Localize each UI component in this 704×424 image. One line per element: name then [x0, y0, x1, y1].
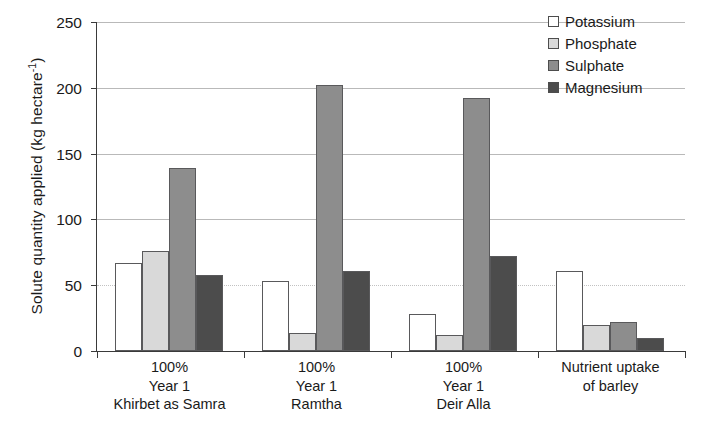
y-axis-title-close: ) — [28, 58, 45, 63]
legend-label: Phosphate — [565, 35, 637, 52]
x-axis-group-label: 100%Year 1Khirbet as Samra — [96, 358, 243, 414]
x-axis-group-label-line: 100% — [390, 358, 537, 377]
x-axis-tick — [97, 351, 98, 358]
chart-legend: PotassiumPhosphateSulphateMagnesium — [548, 10, 643, 98]
legend-swatch-potassium — [548, 16, 559, 27]
bar-sulphate — [463, 98, 490, 351]
y-axis-tick: 100 — [91, 219, 97, 220]
legend-label: Potassium — [565, 13, 635, 30]
x-axis-group-label-line: Year 1 — [390, 377, 537, 396]
y-axis-tick: 150 — [91, 154, 97, 155]
x-axis-tick — [538, 351, 539, 358]
bar-potassium — [115, 263, 142, 351]
bar-magnesium — [196, 275, 223, 351]
x-axis-group-label-line: Year 1 — [96, 377, 243, 396]
x-axis-tick — [685, 351, 686, 358]
gridline — [97, 154, 685, 155]
bar-sulphate — [610, 322, 637, 351]
x-axis-group-label-line: 100% — [96, 358, 243, 377]
bar-sulphate — [169, 168, 196, 351]
y-axis-title: Solute quantity applied (kg hectare-1) — [26, 6, 56, 366]
bar-magnesium — [490, 256, 517, 351]
legend-label: Magnesium — [565, 79, 643, 96]
bar-chart-figure: Solute quantity applied (kg hectare-1) 0… — [0, 0, 704, 424]
x-axis-group-label: 100%Year 1Ramtha — [243, 358, 390, 414]
y-axis-tick-label: 200 — [56, 80, 82, 98]
legend-swatch-phosphate — [548, 38, 559, 49]
x-axis-group-label: 100%Year 1Deir Alla — [390, 358, 537, 414]
legend-item-potassium[interactable]: Potassium — [548, 10, 643, 32]
y-axis-title-text: Solute quantity applied (kg hectare — [28, 72, 45, 314]
x-axis-group-label-line: of barley — [537, 377, 684, 396]
bar-phosphate — [142, 251, 169, 351]
y-axis-tick-label: 0 — [73, 343, 82, 361]
y-axis-tick: 200 — [91, 88, 97, 89]
bar-potassium — [262, 281, 289, 351]
x-axis-tick — [244, 351, 245, 358]
legend-swatch-sulphate — [548, 60, 559, 71]
y-axis-title-exponent: -1 — [26, 63, 38, 73]
x-axis-group-label: Nutrient uptakeof barley — [537, 358, 684, 395]
bar-sulphate — [316, 85, 343, 351]
legend-item-sulphate[interactable]: Sulphate — [548, 54, 643, 76]
y-axis-tick-label: 100 — [56, 211, 82, 229]
x-axis-group-label-line: Nutrient uptake — [537, 358, 684, 377]
y-axis-tick: 250 — [91, 22, 97, 23]
bar-phosphate — [436, 335, 463, 351]
bar-phosphate — [289, 333, 316, 351]
bar-magnesium — [343, 271, 370, 351]
bar-magnesium — [637, 338, 664, 351]
bar-potassium — [409, 314, 436, 351]
x-axis-group-label-line: Year 1 — [243, 377, 390, 396]
y-axis-tick: 50 — [91, 285, 97, 286]
legend-item-magnesium[interactable]: Magnesium — [548, 76, 643, 98]
x-axis-tick — [391, 351, 392, 358]
x-axis-group-label-line: Khirbet as Samra — [96, 395, 243, 414]
x-axis-group-label-line: Ramtha — [243, 395, 390, 414]
y-axis-tick-label: 250 — [56, 14, 82, 32]
bar-phosphate — [583, 325, 610, 351]
y-axis-tick-label: 50 — [65, 277, 82, 295]
legend-label: Sulphate — [565, 57, 624, 74]
x-axis-group-label-line: Deir Alla — [390, 395, 537, 414]
legend-item-phosphate[interactable]: Phosphate — [548, 32, 643, 54]
bar-potassium — [556, 271, 583, 351]
y-axis-tick-label: 150 — [56, 146, 82, 164]
legend-swatch-magnesium — [548, 82, 559, 93]
x-axis-group-label-line: 100% — [243, 358, 390, 377]
